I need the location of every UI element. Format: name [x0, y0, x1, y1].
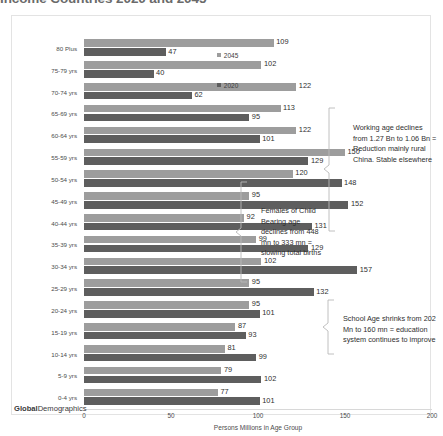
- bar-value-label: 157: [360, 266, 372, 274]
- bar-value-label: 99: [259, 353, 267, 361]
- bar-2020[interactable]: [84, 135, 260, 143]
- category-label: 35-39 yrs: [32, 236, 77, 253]
- bar-value-label: 101: [262, 309, 274, 317]
- bar-value-label: 81: [227, 344, 235, 352]
- chart-row: 40-44 yrs92131: [32, 213, 432, 234]
- legend-swatch-icon: [217, 53, 221, 57]
- bar-value-label: 87: [238, 322, 246, 330]
- category-label: 40-44 yrs: [32, 215, 77, 232]
- bar-2020[interactable]: [84, 397, 260, 405]
- bar-value-label: 47: [168, 48, 176, 56]
- legend-label: 2020: [224, 82, 238, 89]
- bar-2045[interactable]: [84, 192, 249, 200]
- bar-value-label: 40: [156, 69, 164, 77]
- bar-value-label: 92: [247, 213, 255, 221]
- x-axis-line: [84, 409, 432, 410]
- bar-group: 79102: [84, 365, 432, 386]
- bar-2045[interactable]: [84, 149, 345, 157]
- bar-2045[interactable]: [84, 39, 274, 47]
- plot-area: 0-4 yrs771015-9 yrs7910210-14 yrs819915-…: [32, 38, 432, 410]
- category-label: 55-59 yrs: [32, 149, 77, 166]
- chart-row: 45-49 yrs95152: [32, 191, 432, 212]
- bar-group: 95152: [84, 191, 432, 212]
- chart-row: 35-39 yrs99129: [32, 234, 432, 255]
- category-label: 5-9 yrs: [32, 367, 77, 384]
- x-axis-tick-label: 150: [340, 412, 351, 419]
- bar-2045[interactable]: [84, 367, 221, 375]
- bar-value-label: 79: [224, 366, 232, 374]
- bar-2020[interactable]: [84, 310, 260, 318]
- bar-group: 95132: [84, 278, 432, 299]
- bar-value-label: 120: [295, 169, 307, 177]
- chart-row: 10-14 yrs8199: [32, 344, 432, 365]
- legend-item-2020[interactable]: 2020: [217, 81, 238, 89]
- bar-2020[interactable]: [84, 48, 166, 56]
- bar-2045[interactable]: [84, 83, 296, 91]
- category-label: 60-64 yrs: [32, 127, 77, 144]
- category-label: 20-24 yrs: [32, 302, 77, 319]
- bar-2020[interactable]: [84, 266, 357, 274]
- bar-group: 77101: [84, 387, 432, 408]
- bar-group: 120148: [84, 169, 432, 190]
- bar-2045[interactable]: [84, 345, 225, 353]
- chart-row: 75-79 yrs10240: [32, 60, 432, 81]
- bar-value-label: 95: [252, 191, 260, 199]
- bar-2020[interactable]: [84, 179, 342, 187]
- x-axis-tick-label: 200: [427, 412, 438, 419]
- bar-2020[interactable]: [84, 157, 308, 165]
- bar-value-label: 102: [264, 375, 276, 383]
- chart-row: 0-4 yrs77101: [32, 387, 432, 408]
- bar-2020[interactable]: [84, 92, 192, 100]
- brand-bold: Global: [14, 404, 38, 413]
- bar-group: 8199: [84, 344, 432, 365]
- chart-row: 50-54 yrs120148: [32, 169, 432, 190]
- category-label: 75-79 yrs: [32, 62, 77, 79]
- chart-row: 30-34 yrs102157: [32, 256, 432, 277]
- bar-value-label: 93: [248, 331, 256, 339]
- bar-2020[interactable]: [84, 354, 256, 362]
- bar-value-label: 95: [252, 113, 260, 121]
- bar-2045[interactable]: [84, 170, 293, 178]
- x-axis-tick-label: 50: [167, 412, 174, 419]
- bar-2020[interactable]: [84, 288, 314, 296]
- bar-value-label: 132: [316, 288, 328, 296]
- bar-group: 12262: [84, 82, 432, 103]
- bar-2020[interactable]: [84, 114, 249, 122]
- bar-2020[interactable]: [84, 332, 246, 340]
- bar-2045[interactable]: [84, 389, 218, 397]
- bar-2045[interactable]: [84, 214, 244, 222]
- bar-value-label: 122: [299, 82, 311, 90]
- chart-title-strip: Income Countries 2020 and 2045: [0, 0, 443, 9]
- category-label: 65-69 yrs: [32, 105, 77, 122]
- bar-2045[interactable]: [84, 323, 235, 331]
- bar-value-label: 109: [276, 38, 288, 46]
- bar-group: 102157: [84, 256, 432, 277]
- bar-value-label: 122: [299, 126, 311, 134]
- bar-2045[interactable]: [84, 279, 249, 287]
- bar-value-label: 148: [344, 179, 356, 187]
- chart-row: 25-29 yrs95132: [32, 278, 432, 299]
- bar-2045[interactable]: [84, 258, 261, 266]
- bar-2045[interactable]: [84, 301, 249, 309]
- brand-logo: GlobalDemographics: [14, 404, 87, 413]
- bar-2020[interactable]: [84, 70, 154, 78]
- bar-2045[interactable]: [84, 236, 256, 244]
- category-label: 45-49 yrs: [32, 193, 77, 210]
- bar-2020[interactable]: [84, 376, 261, 384]
- bar-group: 11395: [84, 103, 432, 124]
- annotation-females-child-bearing: Females of Child Bearing age declines fr…: [261, 206, 327, 259]
- x-axis-tick-label: 100: [253, 412, 264, 419]
- bar-value-label: 101: [262, 397, 274, 405]
- chart-row: 65-69 yrs11395: [32, 103, 432, 124]
- annotation-working-age: Working age declines from 1.27 Bn to 1.0…: [353, 123, 437, 165]
- x-axis-title: Persons Millions in Age Group: [84, 424, 432, 431]
- category-label: 15-19 yrs: [32, 324, 77, 341]
- category-label: 70-74 yrs: [32, 84, 77, 101]
- bar-value-label: 102: [264, 60, 276, 68]
- bar-value-label: 129: [311, 157, 323, 165]
- category-label: 10-14 yrs: [32, 346, 77, 363]
- legend-item-2045[interactable]: 2045: [217, 51, 238, 59]
- bar-2045[interactable]: [84, 61, 261, 69]
- category-label: 50-54 yrs: [32, 171, 77, 188]
- bar-value-label: 101: [262, 135, 274, 143]
